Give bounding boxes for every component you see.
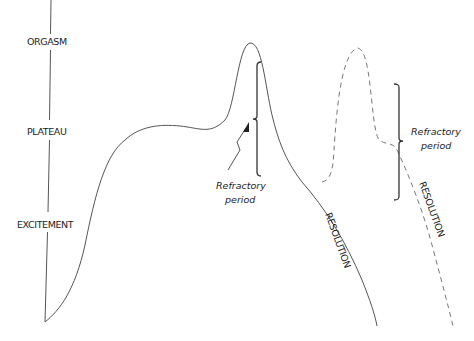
refractory-label-1-line1: Refractory xyxy=(216,180,266,191)
resolution-label-2: RESOLUTION xyxy=(417,180,447,239)
refractory-label-2-line1: Refractory xyxy=(411,126,461,137)
orgasm-label: ORGASM xyxy=(27,36,67,47)
refractory-bracket-2 xyxy=(394,84,403,200)
vertical-axis xyxy=(45,0,51,322)
response-curve-solid xyxy=(45,43,377,326)
plateau-label: PLATEAU xyxy=(27,126,67,137)
resolution-label-1: RESOLUTION xyxy=(323,211,353,270)
response-curve-dashed xyxy=(322,48,453,326)
refractory-label-1-line2: period xyxy=(224,194,256,205)
sexual-response-cycle-diagram: ORGASM PLATEAU EXCITEMENT Refractory per… xyxy=(0,0,474,341)
refractory-arrow-icon xyxy=(228,122,249,170)
excitement-label: EXCITEMENT xyxy=(17,219,74,230)
refractory-bracket-1 xyxy=(253,62,261,176)
refractory-label-2-line2: period xyxy=(420,140,452,151)
